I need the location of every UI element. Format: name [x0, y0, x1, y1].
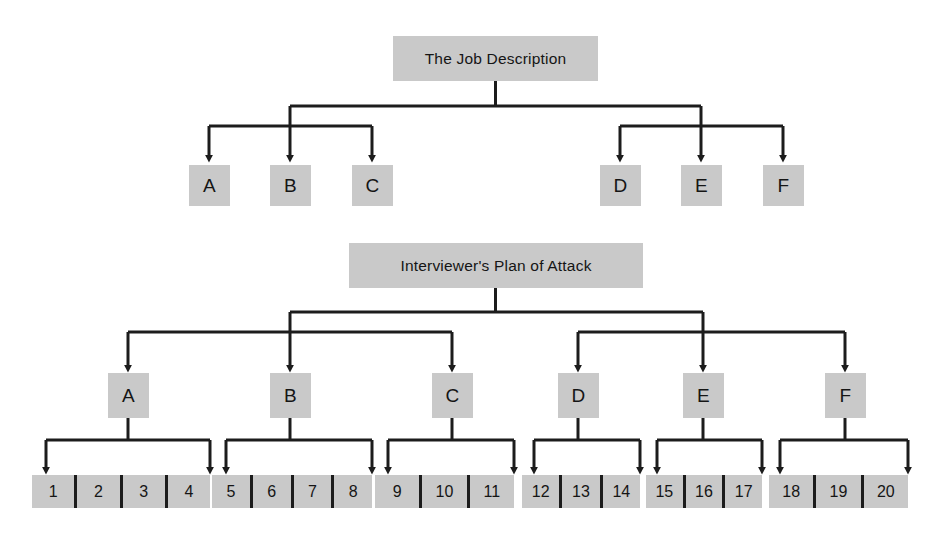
leaf-item[interactable]: 2: [74, 475, 119, 508]
bottom-node-e[interactable]: E: [683, 373, 724, 418]
leaf-item[interactable]: 4: [165, 475, 210, 508]
leaf-item[interactable]: 17: [722, 475, 762, 508]
leaf-item[interactable]: 3: [120, 475, 165, 508]
leaf-item[interactable]: 1: [32, 475, 74, 508]
bottom-node-a[interactable]: A: [108, 373, 149, 418]
leaf-item[interactable]: 18: [769, 475, 813, 508]
leaf-item[interactable]: 14: [600, 475, 640, 508]
top-node-c[interactable]: C: [352, 165, 393, 206]
leaf-group-f: 18 19 20: [769, 475, 908, 508]
leaf-item[interactable]: 11: [467, 475, 514, 508]
leaf-item[interactable]: 9: [375, 475, 419, 508]
leaf-group-c: 9 10 11: [375, 475, 514, 508]
leaf-item[interactable]: 20: [861, 475, 908, 508]
bottom-node-f[interactable]: F: [825, 373, 866, 418]
leaf-group-b: 5 6 7 8: [212, 475, 372, 508]
bottom-node-b[interactable]: B: [270, 373, 311, 418]
top-node-e[interactable]: E: [681, 165, 722, 206]
leaf-item[interactable]: 8: [331, 475, 372, 508]
leaf-item[interactable]: 19: [813, 475, 860, 508]
leaf-item[interactable]: 12: [522, 475, 559, 508]
bottom-node-c[interactable]: C: [432, 373, 473, 418]
leaf-group-a: 1 2 3 4: [32, 475, 210, 508]
leaf-item[interactable]: 16: [683, 475, 723, 508]
leaf-group-e: 15 16 17: [646, 475, 762, 508]
top-node-f[interactable]: F: [763, 165, 804, 206]
leaf-group-d: 12 13 14: [522, 475, 640, 508]
bottom-node-d[interactable]: D: [558, 373, 599, 418]
node-job-description[interactable]: The Job Description: [393, 36, 598, 81]
top-node-d[interactable]: D: [600, 165, 641, 206]
leaf-item[interactable]: 6: [250, 475, 291, 508]
leaf-item[interactable]: 13: [559, 475, 599, 508]
leaf-item[interactable]: 15: [646, 475, 683, 508]
diagram-root: The Job Description A B C D E F Intervie…: [0, 0, 946, 545]
leaf-item[interactable]: 5: [212, 475, 250, 508]
top-node-b[interactable]: B: [270, 165, 311, 206]
leaf-item[interactable]: 7: [291, 475, 332, 508]
top-node-a[interactable]: A: [189, 165, 230, 206]
node-interviewers-plan-of-attack[interactable]: Interviewer's Plan of Attack: [349, 243, 643, 288]
leaf-item[interactable]: 10: [419, 475, 466, 508]
